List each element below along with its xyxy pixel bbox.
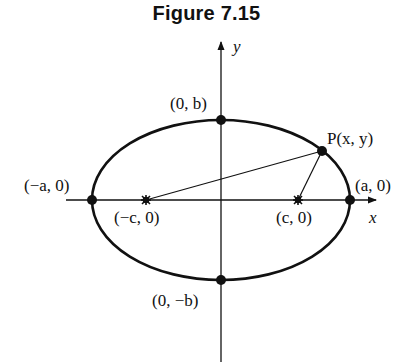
covertex-top-label: (0, b) (170, 94, 207, 113)
x-axis-label: x (368, 208, 377, 227)
covertex-top-dot (216, 115, 226, 125)
point-p-dot (317, 146, 327, 156)
focal-radius-left (146, 151, 322, 200)
ellipse-diagram: y x (0, b) P(x, y) (−a, 0) (a, 0) (−c, 0… (0, 0, 413, 364)
focus-left-star-icon (141, 195, 151, 205)
point-p-label: P(x, y) (327, 129, 373, 148)
focus-right-label: (c, 0) (276, 208, 312, 227)
focus-left-label: (−c, 0) (114, 208, 159, 227)
focus-right-star-icon (293, 195, 303, 205)
covertex-bottom-label: (0, −b) (152, 291, 198, 310)
vertex-left-dot (87, 195, 97, 205)
vertex-left-label: (−a, 0) (24, 176, 69, 195)
covertex-bottom-dot (216, 275, 226, 285)
vertex-right-label: (a, 0) (355, 176, 391, 195)
vertex-right-dot (345, 195, 355, 205)
y-axis-label: y (231, 37, 241, 56)
focal-radius-right (298, 151, 322, 200)
